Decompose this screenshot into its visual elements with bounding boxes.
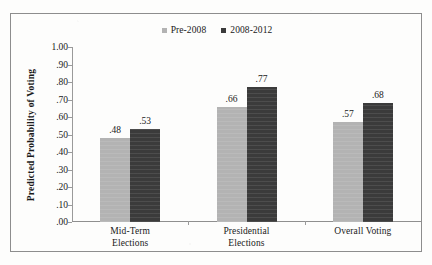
x-axis-category-label-line: Elections (72, 237, 188, 249)
legend-label-2008-2012: 2008-2012 (230, 25, 272, 36)
bar: .68 (363, 103, 393, 222)
y-axis-tick-label: .40 (42, 147, 68, 157)
x-axis-category-label-line: Mid-Term (110, 226, 150, 236)
chart-legend: Pre-2008 2008-2012 (11, 25, 423, 36)
y-axis-tick-label: .30 (42, 165, 68, 175)
y-axis-title-text: Predicted Probability of Voting (26, 68, 36, 200)
x-axis-category-label-line: Elections (188, 237, 304, 249)
y-axis-tick-label: .80 (42, 77, 68, 87)
bars-layer: .48.53.66.77.57.68 (72, 47, 421, 222)
y-axis-tick-label: .10 (42, 200, 68, 210)
legend-swatch-icon-pre-2008 (162, 28, 167, 33)
bar-value-label: .77 (247, 74, 277, 85)
y-axis-tick-label: .00 (42, 217, 68, 227)
bar-value-label: .68 (363, 90, 393, 101)
legend-swatch-icon-2008-2012 (221, 28, 226, 33)
y-axis-tick-label: .50 (42, 130, 68, 140)
scan-page-background: Pre-2008 2008-2012 Predicted Probability… (0, 0, 432, 265)
bar-scan-texture (130, 129, 160, 222)
bar-group: .57.68 (333, 47, 393, 222)
bar: .53 (130, 129, 160, 222)
bar-scan-texture (247, 87, 277, 222)
y-axis-tick-label: 1.00 (42, 42, 68, 52)
y-axis-tick-label: .90 (42, 60, 68, 70)
bar-value-label: .66 (217, 94, 247, 105)
bar-scan-texture (333, 122, 363, 222)
x-axis-category-label: Mid-TermElections (72, 225, 188, 249)
y-axis-title: Predicted Probability of Voting (24, 47, 38, 222)
plot-area: 1.00.90.80.70.60.50.40.30.20.10.00 .48.5… (72, 47, 421, 234)
x-axis-category-label-line: Overall Voting (334, 226, 391, 236)
y-axis-tick-mark (68, 222, 72, 223)
bar: .77 (247, 87, 277, 222)
y-axis-tick-label: .70 (42, 95, 68, 105)
legend-entry-pre-2008: Pre-2008 (162, 25, 207, 36)
bar-scan-texture (363, 103, 393, 222)
bar: .57 (333, 122, 363, 222)
bar-scan-texture (217, 107, 247, 223)
bar-value-label: .53 (130, 116, 160, 127)
x-axis-category-label-line: Presidential (223, 226, 269, 236)
legend-entry-2008-2012: 2008-2012 (221, 25, 272, 36)
bar-value-label: .48 (100, 125, 130, 136)
bar-group: .48.53 (100, 47, 160, 222)
legend-label-pre-2008: Pre-2008 (171, 25, 207, 36)
bar: .48 (100, 138, 130, 222)
x-axis-category-label: PresidentialElections (188, 225, 304, 249)
y-axis-tick-label: .20 (42, 182, 68, 192)
bar-scan-texture (100, 138, 130, 222)
y-axis-tick-label: .60 (42, 112, 68, 122)
x-axis-category-labels: Mid-TermElectionsPresidentialElectionsOv… (72, 225, 421, 261)
x-axis-category-label: Overall Voting (305, 225, 421, 237)
chart-outer-frame: Pre-2008 2008-2012 Predicted Probability… (10, 13, 422, 252)
bar-group: .66.77 (217, 47, 277, 222)
bar: .66 (217, 107, 247, 223)
bar-value-label: .57 (333, 109, 363, 120)
